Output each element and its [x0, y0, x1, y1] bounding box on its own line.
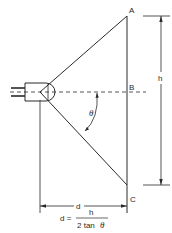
- cone-edge-upper: [40, 16, 127, 92]
- light-cone-diagram: A B C θ h d d = h 2 tan θ: [0, 0, 172, 233]
- d-arrow-left: [40, 204, 46, 207]
- point-a-label: A: [129, 6, 135, 15]
- d-arrow-right: [121, 204, 127, 207]
- angle-theta-label: θ: [89, 108, 94, 118]
- cone-edge-lower: [40, 92, 127, 185]
- formula-numerator: h: [89, 208, 93, 217]
- h-arrow-top: [159, 16, 162, 22]
- formula-denominator-theta: θ: [100, 220, 105, 230]
- formula-denominator-prefix: 2 tan: [77, 221, 95, 230]
- distance-label: d: [76, 202, 80, 211]
- h-arrow-bottom: [159, 179, 162, 185]
- point-c-label: C: [130, 195, 136, 204]
- height-label: h: [158, 74, 162, 83]
- formula-lhs: d =: [60, 214, 72, 223]
- angle-arrow-top: [96, 93, 99, 98]
- point-b-label: B: [129, 83, 134, 92]
- distance-formula: d = h 2 tan θ: [60, 208, 108, 230]
